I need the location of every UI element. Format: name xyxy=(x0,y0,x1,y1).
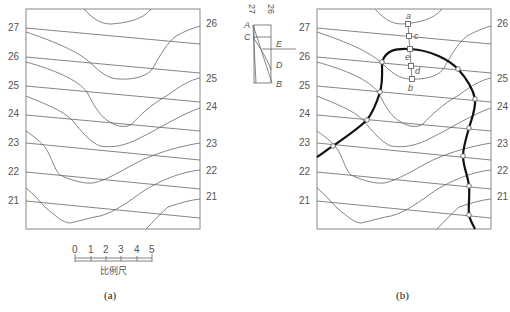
label-26: 26 xyxy=(497,18,509,29)
plane-contours-a xyxy=(26,28,200,218)
label-21: 21 xyxy=(299,195,311,206)
figure-b: a c e d b 27 26 25 24 23 22 21 26 25 24 … xyxy=(299,9,509,302)
point-d: d xyxy=(415,66,421,76)
caption-a: (a) xyxy=(104,289,117,302)
point-b: b xyxy=(408,83,413,93)
inset-header-26: 26 xyxy=(266,4,276,14)
scale-tick-5: 5 xyxy=(149,244,155,255)
scale-tick-1: 1 xyxy=(88,244,94,255)
figure-a: 27 26 25 24 23 22 21 26 25 24 23 22 21 0 xyxy=(8,9,218,302)
label-21: 21 xyxy=(8,195,20,206)
plane-contours-b xyxy=(317,28,491,218)
point-D: D xyxy=(276,60,283,70)
right-labels-a: 26 25 24 23 22 21 xyxy=(206,18,218,202)
point-E: E xyxy=(276,39,283,49)
caption-b: (b) xyxy=(396,289,409,302)
label-24: 24 xyxy=(8,108,20,119)
label-25: 25 xyxy=(8,80,20,91)
label-26: 26 xyxy=(206,18,218,29)
label-21: 21 xyxy=(497,191,509,202)
label-23: 23 xyxy=(8,137,20,148)
label-24: 24 xyxy=(299,108,311,119)
label-23: 23 xyxy=(206,138,218,149)
point-B: B xyxy=(276,79,282,89)
label-24: 24 xyxy=(206,101,218,112)
scale-tick-2: 2 xyxy=(103,244,109,255)
label-25: 25 xyxy=(206,73,218,84)
point-A: A xyxy=(243,20,250,30)
scale-tick-0: 0 xyxy=(72,244,78,255)
right-labels-b: 26 25 24 23 22 21 xyxy=(497,18,509,202)
intersection-nodes xyxy=(331,22,478,218)
label-23: 23 xyxy=(497,138,509,149)
scale-tick-3: 3 xyxy=(118,244,124,255)
point-C: C xyxy=(244,32,251,42)
scale-bar: 0 1 2 3 4 5 比例尺 xyxy=(72,244,155,276)
scale-bar-label: 比例尺 xyxy=(100,265,127,276)
label-25: 25 xyxy=(497,73,509,84)
label-24: 24 xyxy=(497,101,509,112)
point-e: e xyxy=(405,52,410,62)
label-22: 22 xyxy=(206,165,218,176)
label-25: 25 xyxy=(299,80,311,91)
label-27: 27 xyxy=(8,22,20,33)
label-26: 26 xyxy=(8,51,20,62)
diagram-canvas: 27 26 25 24 23 22 21 26 25 24 23 22 21 0 xyxy=(0,0,510,312)
label-27: 27 xyxy=(299,22,311,33)
point-c: c xyxy=(414,31,419,41)
label-22: 22 xyxy=(299,166,311,177)
label-22: 22 xyxy=(497,165,509,176)
excavation-boundary-line xyxy=(317,49,475,229)
label-23: 23 xyxy=(299,137,311,148)
left-labels-a: 27 26 25 24 23 22 21 xyxy=(8,22,20,206)
label-26: 26 xyxy=(299,51,311,62)
scale-tick-4: 4 xyxy=(134,244,140,255)
inset-header-27: 27 xyxy=(247,4,257,14)
label-22: 22 xyxy=(8,166,20,177)
left-labels-b: 27 26 25 24 23 22 21 xyxy=(299,22,311,206)
point-a: a xyxy=(406,11,411,21)
label-21: 21 xyxy=(206,191,218,202)
inset-slope-construction: 27 26 A C E D B xyxy=(243,4,296,89)
